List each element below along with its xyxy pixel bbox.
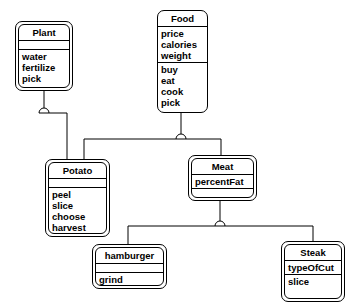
operation: harvest: [52, 222, 103, 233]
attribute: price: [161, 28, 204, 39]
operations-section: water fertilize pick: [19, 50, 69, 87]
class-hamburger[interactable]: hamburger grind: [92, 244, 167, 289]
class-plant[interactable]: Plant water fertilize pick: [15, 21, 73, 91]
class-name: hamburger: [96, 248, 163, 264]
attribute: typeOfCut: [288, 262, 338, 273]
operations-section: slice: [285, 275, 341, 298]
operation: fertilize: [22, 62, 66, 73]
attributes-section: [19, 41, 69, 50]
operation: water: [22, 51, 66, 62]
attributes-section: [96, 264, 163, 273]
operation: pick: [22, 73, 66, 84]
operation: buy: [161, 64, 204, 75]
operations-section: [192, 189, 253, 197]
inheritance-plant-potato: [39, 90, 67, 160]
operation: cook: [161, 86, 204, 97]
operation: peel: [52, 189, 103, 200]
class-steak[interactable]: Steak typeOfCut slice: [281, 241, 345, 302]
operation: eat: [161, 75, 204, 86]
class-food[interactable]: Food price calories weight buy eat cook …: [157, 10, 208, 113]
attributes-section: [49, 179, 106, 188]
class-name: Food: [158, 11, 207, 27]
class-name: Plant: [19, 25, 69, 41]
attribute: percentFat: [195, 176, 250, 187]
attributes-section: price calories weight: [158, 27, 207, 63]
inheritance-arc-icon: [39, 108, 49, 113]
operation: slice: [52, 200, 103, 211]
class-potato[interactable]: Potato peel slice choose harvest: [45, 159, 110, 237]
inheritance-food-children: [84, 113, 221, 160]
attribute: weight: [161, 50, 204, 61]
operations-section: grind: [96, 273, 163, 286]
inheritance-meat-children: [128, 200, 313, 245]
class-meat[interactable]: Meat percentFat: [188, 155, 257, 201]
operation: pick: [161, 97, 204, 108]
operation: slice: [288, 276, 338, 287]
class-name: Meat: [192, 159, 253, 175]
class-name: Steak: [285, 245, 341, 261]
operations-section: buy eat cook pick: [158, 63, 207, 112]
operation: choose: [52, 211, 103, 222]
attributes-section: typeOfCut: [285, 261, 341, 275]
operation: grind: [99, 274, 160, 285]
attribute: calories: [161, 39, 204, 50]
class-name: Potato: [49, 163, 106, 179]
attributes-section: percentFat: [192, 175, 253, 189]
operations-section: peel slice choose harvest: [49, 188, 106, 234]
